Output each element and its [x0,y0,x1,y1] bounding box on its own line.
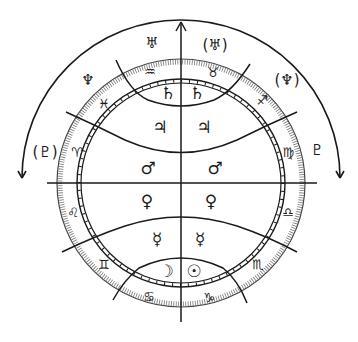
mercury-left-icon: ☿ [152,231,162,248]
saturn-right-icon: ♄ [189,85,204,102]
mercury-right-icon: ☿ [195,231,205,248]
scorpio-icon: ♏ [252,258,264,271]
pluto-parenthesized-icon: (♇) [32,145,57,160]
cancer-icon: ♋ [143,290,155,303]
moon-icon: ☽ [158,263,173,280]
house-divisions [47,22,317,322]
sagittarius-icon: ♐ [256,94,268,107]
chart-wheel [0,0,358,342]
libra-icon: ♎ [282,206,294,219]
uranus-parenthesized-icon: (♅) [202,38,227,53]
capricorn-icon: ♑ [203,291,215,304]
aries-icon: ♈ [71,146,83,159]
uranus-icon: ♅ [145,36,158,51]
jupiter-left-icon: ♃ [152,119,167,136]
virgo-icon: ♍ [282,146,294,159]
pisces-icon: ♓ [98,97,110,110]
sun-icon: ☉ [186,263,201,280]
aquarius-icon: ♒ [144,65,156,78]
venus-right-icon: ♀ [205,193,217,210]
gemini-icon: ♊ [98,258,110,271]
jupiter-right-icon: ♃ [196,119,211,136]
neptune-parenthesized-icon: (♆) [274,73,299,88]
leo-icon: ♌ [67,206,79,219]
mars-right-icon: ♂ [207,160,222,177]
taurus-icon: ♉ [207,66,219,79]
mars-left-icon: ♂ [140,160,155,177]
neptune-icon: ♆ [81,73,94,88]
saturn-left-icon: ♄ [160,85,175,102]
venus-left-icon: ♀ [141,193,153,210]
pluto-icon: ♇ [310,143,323,158]
